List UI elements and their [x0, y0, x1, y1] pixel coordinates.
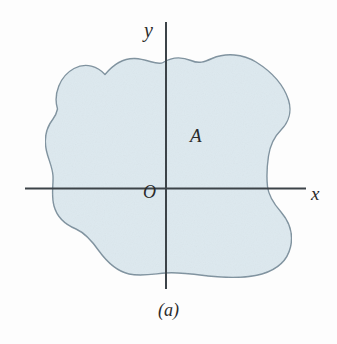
- figure-caption: (a): [0, 300, 337, 321]
- figure-container: y x O A (a): [0, 0, 337, 344]
- region-a-shape: [45, 55, 291, 278]
- region-label-a: A: [190, 126, 202, 145]
- x-axis-label: x: [311, 184, 319, 203]
- y-axis-label: y: [144, 20, 153, 40]
- origin-label: O: [143, 183, 156, 201]
- figure-canvas: [0, 0, 337, 344]
